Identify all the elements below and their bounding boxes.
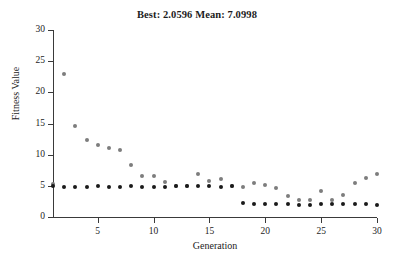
x-tick-label: 25 [306, 226, 336, 236]
data-point [140, 174, 144, 178]
data-point [129, 184, 133, 188]
x-tick-label: 5 [83, 226, 113, 236]
data-point [96, 143, 100, 147]
data-point [353, 181, 357, 185]
data-point [96, 184, 100, 188]
data-point [274, 202, 278, 206]
data-point [163, 185, 167, 189]
data-point [107, 185, 111, 189]
data-point [286, 194, 290, 198]
y-axis-label: Fitness Value [10, 49, 21, 139]
data-point [274, 186, 278, 190]
x-tick-mark [209, 218, 210, 223]
x-tick-mark [321, 218, 322, 223]
data-point [330, 202, 334, 206]
x-axis-label: Generation [53, 240, 377, 251]
x-tick-mark [98, 218, 99, 223]
data-point [73, 185, 77, 189]
data-point [308, 203, 312, 207]
data-point [85, 185, 89, 189]
y-tick-label: 0 [21, 211, 45, 221]
x-tick-label: 30 [362, 226, 392, 236]
data-point [297, 203, 301, 207]
data-point [364, 176, 368, 180]
data-point [286, 202, 290, 206]
x-tick-label: 20 [250, 226, 280, 236]
y-tick-label: 20 [21, 86, 45, 96]
data-point [140, 185, 144, 189]
data-point [219, 177, 223, 181]
data-point [364, 202, 368, 206]
data-point [375, 203, 379, 207]
data-point [319, 202, 323, 206]
data-point [341, 193, 345, 197]
data-point [252, 202, 256, 206]
data-point [163, 180, 167, 184]
data-point [118, 185, 122, 189]
y-tick-label: 30 [21, 24, 45, 34]
data-point [319, 189, 323, 193]
x-tick-label: 10 [139, 226, 169, 236]
data-point [51, 184, 55, 188]
data-point [241, 201, 245, 205]
data-point [230, 184, 234, 188]
data-point [353, 202, 357, 206]
x-tick-mark [377, 218, 378, 223]
data-point [129, 163, 133, 167]
data-point [152, 185, 156, 189]
data-point [174, 184, 178, 188]
x-tick-label: 15 [194, 226, 224, 236]
data-point [308, 198, 312, 202]
y-tick-mark [48, 217, 53, 218]
data-point [219, 185, 223, 189]
x-tick-mark [154, 218, 155, 223]
chart-title: Best: 2.0596 Mean: 7.0998 [0, 9, 394, 20]
data-point [118, 148, 122, 152]
data-point [207, 184, 211, 188]
data-point [341, 202, 345, 206]
y-tick-label: 25 [21, 55, 45, 65]
x-tick-mark [265, 218, 266, 223]
data-point [375, 172, 379, 176]
y-tick-label: 10 [21, 149, 45, 159]
data-point [196, 184, 200, 188]
fitness-scatter-chart: Best: 2.0596 Mean: 7.0998 Fitness Value … [0, 0, 394, 265]
y-tick-label: 15 [21, 118, 45, 128]
data-point [196, 172, 200, 176]
data-point [62, 185, 66, 189]
plot-area [53, 30, 377, 217]
data-point [263, 202, 267, 206]
data-point [241, 185, 245, 189]
data-point [62, 72, 66, 76]
data-point [252, 181, 256, 185]
data-point [207, 179, 211, 183]
data-point [330, 198, 334, 202]
x-axis-line [53, 217, 377, 218]
data-point [85, 138, 89, 142]
data-point [107, 146, 111, 150]
data-point [185, 184, 189, 188]
data-point [152, 174, 156, 178]
y-tick-label: 5 [21, 180, 45, 190]
data-point [297, 198, 301, 202]
data-point [73, 124, 77, 128]
data-point [263, 183, 267, 187]
